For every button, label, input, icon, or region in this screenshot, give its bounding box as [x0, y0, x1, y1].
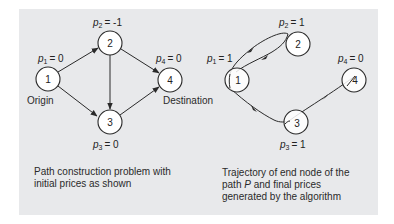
left-diagram: 1 2 3 4 p1= 0 p2= -1 p3= 0 p4= 0 Origin … — [27, 17, 213, 151]
trajectory-1-to-2 — [236, 34, 288, 72]
right-caption-line-1: Trajectory of end node of the — [222, 167, 350, 179]
arrow-1-to-3 — [251, 105, 257, 112]
node-label: 2 — [295, 39, 301, 50]
right-diagram: 1 2 3 4 p1= 1 p2= 1 p3= 1 p4= 0 — [206, 17, 366, 151]
left-node-4: 4 — [158, 68, 182, 92]
left-price-1: p1= 0 — [37, 53, 64, 65]
right-price-3: p3= 1 — [279, 139, 306, 151]
left-caption: Path construction problem with initial p… — [34, 166, 171, 190]
arrow-3-to-4 — [322, 94, 328, 100]
origin-label: Origin — [27, 95, 54, 106]
node-label: 2 — [107, 38, 113, 49]
right-caption-line-3: generated by the algorithm — [222, 191, 350, 203]
right-node-4: 4 — [342, 68, 366, 92]
node-label: 3 — [294, 118, 300, 129]
left-price-3: p3= 0 — [92, 139, 119, 151]
node-label: 4 — [167, 75, 173, 86]
caption-text: path — [222, 179, 244, 190]
right-node-2: 2 — [286, 32, 310, 56]
left-node-2: 2 — [98, 31, 122, 55]
edge-3-4 — [120, 87, 159, 115]
node-label: 4 — [352, 75, 358, 86]
right-price-1: p1= 1 — [206, 53, 233, 65]
node-label: 1 — [45, 74, 51, 85]
left-caption-line-2: initial prices as shown — [34, 178, 171, 190]
left-node-3: 3 — [98, 110, 122, 134]
right-price-2: p2= 1 — [278, 17, 305, 29]
caption-text: and final prices — [251, 179, 321, 190]
path-variable: P — [244, 179, 251, 190]
left-price-2: p2= -1 — [92, 17, 122, 29]
right-caption: Trajectory of end node of the path P and… — [222, 167, 350, 203]
trajectory-1-to-3 — [230, 88, 290, 122]
left-node-1: 1 — [36, 67, 60, 91]
right-price-4: p4= 0 — [337, 53, 364, 65]
edge-2-4 — [121, 49, 159, 73]
right-caption-line-2: path P and final prices — [222, 179, 350, 191]
node-label: 1 — [235, 75, 241, 86]
destination-label: Destination — [163, 95, 213, 106]
edge-1-2 — [58, 48, 98, 72]
node-label: 3 — [107, 117, 113, 128]
right-node-1: 1 — [225, 68, 249, 92]
edge-1-3 — [58, 86, 97, 116]
left-caption-line-1: Path construction problem with — [34, 166, 171, 178]
left-price-4: p4= 0 — [155, 53, 182, 65]
